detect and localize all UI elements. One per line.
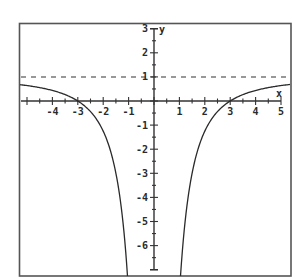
y-tick-label: -5 xyxy=(136,216,148,227)
y-tick-label: 2 xyxy=(142,47,148,58)
x-axis-label: x xyxy=(276,88,282,99)
x-tick-label: 2 xyxy=(202,106,208,117)
x-tick-label: 4 xyxy=(253,106,259,117)
y-tick-label: -1 xyxy=(136,120,148,131)
function-plot: -4-3-2-112345321-1-2-3-4-5-6 x y xyxy=(0,0,303,279)
x-tick-label: -2 xyxy=(97,106,109,117)
y-tick-label: 3 xyxy=(142,23,148,34)
y-tick-label: -6 xyxy=(136,240,148,251)
x-tick-label: 5 xyxy=(278,106,284,117)
y-axis-label: y xyxy=(159,24,165,35)
y-tick-label: -2 xyxy=(136,144,148,155)
y-tick-label: 1 xyxy=(142,71,148,82)
y-tick-label: -4 xyxy=(136,192,148,203)
x-tick-label: -4 xyxy=(46,106,58,117)
x-tick-label: 1 xyxy=(176,106,182,117)
y-tick-label: -3 xyxy=(136,168,148,179)
x-tick-label: -1 xyxy=(123,106,135,117)
x-tick-label: -3 xyxy=(72,106,84,117)
x-tick-label: 3 xyxy=(227,106,233,117)
